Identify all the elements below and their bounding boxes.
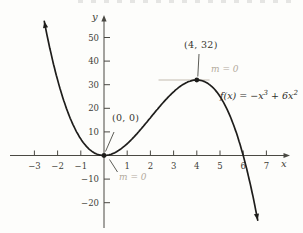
y-axis-label: y xyxy=(92,11,98,22)
leader-line-max-label xyxy=(198,54,199,77)
y-tick-label: 50 xyxy=(88,33,99,43)
x-tick-label: 5 xyxy=(217,161,222,171)
function-curve xyxy=(44,21,257,220)
y-tick-label: −10 xyxy=(81,174,99,184)
origin-point-label: (0, 0) xyxy=(112,112,139,123)
function-graph-canvas: −3−2−11234567−20−101020304050 xyxy=(0,0,303,233)
leader-line-slope-origin xyxy=(110,160,118,173)
x-tick-label: 7 xyxy=(264,161,269,171)
leader-line-origin-label xyxy=(106,132,115,152)
x-tick-label: 2 xyxy=(148,161,153,171)
y-tick-label: 10 xyxy=(88,127,99,137)
y-tick-label: 30 xyxy=(88,80,99,90)
y-tick-label: 20 xyxy=(88,103,99,113)
max-point-dot xyxy=(194,78,199,83)
origin-point-dot xyxy=(102,153,107,158)
arrowhead xyxy=(101,15,106,22)
x-tick-label: −1 xyxy=(75,161,88,171)
slope-annotation-max: m = 0 xyxy=(211,64,239,74)
y-tick-label: −20 xyxy=(81,198,99,208)
x-tick-label: 3 xyxy=(171,161,176,171)
x-tick-label: 4 xyxy=(194,161,199,171)
y-tick-label: 40 xyxy=(88,56,99,66)
slope-annotation-origin: m = 0 xyxy=(119,172,147,182)
x-tick-label: −2 xyxy=(51,161,64,171)
x-tick-label: 1 xyxy=(124,161,129,171)
x-axis-label: x xyxy=(281,158,287,169)
x-tick-label: −3 xyxy=(28,161,41,171)
function-equation-label: f(x) = −x3 + 6x2 xyxy=(220,89,298,101)
max-point-label: (4, 32) xyxy=(184,39,218,50)
